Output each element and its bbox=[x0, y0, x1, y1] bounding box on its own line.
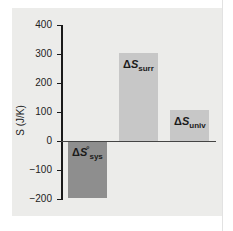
zero-baseline bbox=[61, 141, 216, 142]
bar-label-univ: ΔSuniv bbox=[174, 115, 206, 127]
y-tick bbox=[57, 199, 62, 200]
y-tick bbox=[57, 112, 62, 113]
y-tick-label: −100 bbox=[29, 165, 52, 175]
y-axis-label: S (J/K) bbox=[15, 101, 26, 141]
y-tick-label: 0 bbox=[46, 136, 52, 146]
bar-label-surr: ΔSsurr bbox=[123, 58, 154, 70]
y-tick bbox=[57, 54, 62, 55]
y-tick-label: −200 bbox=[29, 194, 52, 204]
bar-label-sys: ΔS°sys bbox=[72, 146, 103, 158]
y-tick-label: 200 bbox=[35, 78, 52, 88]
y-tick-label: 400 bbox=[35, 20, 52, 30]
y-tick bbox=[57, 25, 62, 26]
y-tick bbox=[57, 170, 62, 171]
y-tick-label: 100 bbox=[35, 107, 52, 117]
y-tick-label: 300 bbox=[35, 49, 52, 59]
y-tick bbox=[57, 83, 62, 84]
page-edge-divider bbox=[222, 0, 223, 231]
